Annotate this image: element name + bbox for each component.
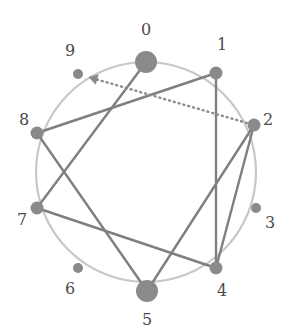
graph-node-0[interactable]	[135, 51, 157, 73]
graph-edge-4-7	[37, 208, 216, 268]
graph-node-2[interactable]	[248, 119, 261, 132]
node-label-3: 3	[265, 215, 275, 231]
graph-node-6[interactable]	[73, 263, 83, 273]
edge-layer	[37, 62, 254, 291]
graph-node-3[interactable]	[251, 203, 261, 213]
graph-edge-1-8	[37, 73, 216, 133]
graph-node-4[interactable]	[210, 262, 223, 275]
graph-edge-2-9	[89, 77, 247, 123]
graph-edge-2-5	[147, 125, 254, 291]
graph-edge-0-7	[37, 62, 146, 208]
node-layer	[31, 51, 262, 302]
node-label-6: 6	[65, 281, 75, 297]
node-label-1: 1	[217, 37, 227, 53]
graph-canvas	[0, 0, 290, 334]
node-label-0: 0	[141, 22, 151, 38]
graph-node-5[interactable]	[136, 280, 158, 302]
graph-node-1[interactable]	[210, 67, 223, 80]
node-label-5: 5	[142, 312, 152, 328]
circular-graph-figure: 0123456789	[0, 0, 290, 334]
graph-node-7[interactable]	[31, 202, 44, 215]
node-label-9: 9	[65, 43, 75, 59]
node-label-2: 2	[263, 112, 273, 128]
graph-node-9[interactable]	[73, 69, 83, 79]
node-label-8: 8	[19, 112, 29, 128]
graph-node-8[interactable]	[31, 127, 44, 140]
node-label-4: 4	[217, 283, 227, 299]
graph-edge-2-4	[216, 125, 254, 268]
node-label-7: 7	[17, 212, 27, 228]
